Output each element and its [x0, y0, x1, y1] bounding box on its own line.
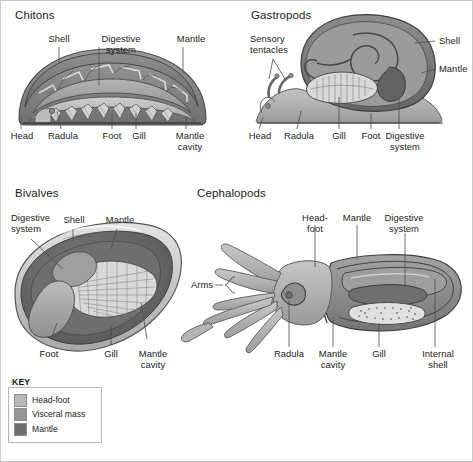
key-swatch-mantle [14, 423, 27, 436]
cephalopod-label-arms: Arms [191, 280, 213, 291]
cephalopod-label-radula: Radula [274, 349, 304, 360]
key-legend: Head-foot Visceral mass Mantle [8, 387, 102, 443]
key-label-visceral-mass: Visceral mass [32, 409, 85, 420]
key-item-mantle: Mantle [14, 423, 96, 436]
key-label-mantle: Mantle [32, 424, 58, 435]
key-item-head-foot: Head-foot [14, 394, 96, 407]
cephalopod-label-digestive-system: Digestive system [384, 213, 423, 234]
key-label-head-foot: Head-foot [32, 395, 70, 406]
key-item-visceral-mass: Visceral mass [14, 408, 96, 421]
cephalopod-label-internal-shell: Internal shell [422, 349, 454, 370]
cephalopod-label-mantle: Mantle [343, 213, 371, 224]
cephalopod-label-gill: Gill [372, 349, 386, 360]
cephalopod-label-mantle-cavity: Mantle cavity [319, 349, 347, 370]
key-swatch-visceral-mass [14, 408, 27, 421]
molluscan-body-plans-figure: Chitons [0, 0, 473, 462]
key-swatch-head-foot [14, 394, 27, 407]
cephalopod-label-head-foot: Head-foot [302, 213, 328, 234]
key-title: KEY [10, 377, 32, 387]
